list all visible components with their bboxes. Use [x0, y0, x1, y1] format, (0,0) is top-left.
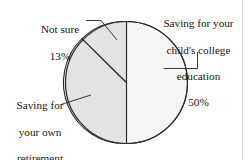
slice-label-college-line2: child's college: [167, 44, 231, 56]
slice-label-college-line3: education: [177, 70, 221, 82]
slice-label-notsure-line1: Not sure: [41, 23, 79, 35]
slice-value-college: 50%: [151, 96, 246, 109]
slice-label-college-line1: Saving for your: [163, 17, 233, 29]
slice-label-retirement: Saving for your own retirement 37%: [2, 86, 78, 160]
slice-label-retirement-line3: retirement: [17, 152, 63, 160]
slice-label-retirement-line1: Saving for: [17, 99, 64, 111]
slice-value-notsure: 13%: [24, 50, 96, 63]
slice-label-retirement-line2: your own: [19, 126, 62, 138]
pie-chart-figure: Saving for your child's college educatio…: [0, 0, 249, 160]
slice-label-college: Saving for your child's college educatio…: [151, 4, 246, 123]
slice-label-notsure: Not sure 13%: [24, 10, 96, 76]
